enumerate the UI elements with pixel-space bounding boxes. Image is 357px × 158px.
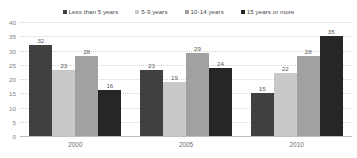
- y-axis-tick-label: 40: [9, 19, 16, 26]
- bar-value-label: 28: [297, 48, 320, 55]
- bar-value-label: 22: [274, 65, 297, 72]
- bar[interactable]: [163, 82, 186, 136]
- chart-legend: Less than 5 years5-9 years10-14 years15 …: [0, 5, 357, 18]
- bar-slot: 16: [98, 22, 121, 136]
- y-axis-tick-label: 10: [9, 104, 16, 111]
- y-axis-tick-label: 20: [9, 76, 16, 83]
- legend-item[interactable]: Less than 5 years: [63, 8, 119, 15]
- bars-layer: 322328162319292415222835: [20, 22, 352, 136]
- legend-swatch-icon: [135, 10, 139, 14]
- bar-group: 15222835: [241, 22, 352, 136]
- x-axis-tick-label: 2005: [131, 140, 242, 152]
- y-axis-tick-label: 15: [9, 90, 16, 97]
- bar-value-label: 35: [320, 28, 343, 35]
- bar-value-label: 16: [98, 82, 121, 89]
- bar-slot: 32: [29, 22, 52, 136]
- bar-value-label: 32: [29, 37, 52, 44]
- bar-group: 32232816: [20, 22, 131, 136]
- bar-value-label: 15: [251, 85, 274, 92]
- bar[interactable]: [186, 53, 209, 136]
- x-axis-tick-label: 2000: [20, 140, 131, 152]
- bar[interactable]: [52, 70, 75, 136]
- bar-slot: 29: [186, 22, 209, 136]
- bar[interactable]: [98, 90, 121, 136]
- y-axis-tick-label: 35: [9, 33, 16, 40]
- bar[interactable]: [75, 56, 98, 136]
- y-axis-tick-label: 5: [13, 118, 16, 125]
- legend-label: Less than 5 years: [69, 8, 119, 15]
- axis-baseline: [20, 136, 352, 137]
- bar-slot: 35: [320, 22, 343, 136]
- bar[interactable]: [209, 68, 232, 136]
- bar-value-label: 23: [52, 62, 75, 69]
- bar[interactable]: [140, 70, 163, 136]
- legend-swatch-icon: [241, 10, 245, 14]
- bar-value-label: 23: [140, 62, 163, 69]
- bar[interactable]: [274, 73, 297, 136]
- y-axis-tick-label: 25: [9, 61, 16, 68]
- bar-value-label: 24: [209, 60, 232, 67]
- bar-value-label: 29: [186, 45, 209, 52]
- bar-value-label: 28: [75, 48, 98, 55]
- bar[interactable]: [320, 36, 343, 136]
- bar-slot: 22: [274, 22, 297, 136]
- bar-slot: 19: [163, 22, 186, 136]
- bar-slot: 15: [251, 22, 274, 136]
- bar[interactable]: [29, 45, 52, 136]
- bar-slot: 24: [209, 22, 232, 136]
- legend-label: 15 years or more: [247, 8, 295, 15]
- legend-label: 10-14 years: [191, 8, 224, 15]
- x-axis-tick-label: 2010: [241, 140, 352, 152]
- legend-item[interactable]: 5-9 years: [135, 8, 167, 15]
- legend-label: 5-9 years: [141, 8, 167, 15]
- legend-swatch-icon: [63, 10, 67, 14]
- y-axis-tick-label: 0: [13, 133, 16, 140]
- y-axis-tick-label: 30: [9, 47, 16, 54]
- bar-slot: 28: [297, 22, 320, 136]
- y-axis: 0510152025303540: [0, 22, 18, 136]
- bar-group: 23192924: [131, 22, 242, 136]
- bar-slot: 23: [140, 22, 163, 136]
- legend-item[interactable]: 15 years or more: [241, 8, 295, 15]
- legend-item[interactable]: 10-14 years: [185, 8, 224, 15]
- bar[interactable]: [297, 56, 320, 136]
- bar[interactable]: [251, 93, 274, 136]
- bar-slot: 23: [52, 22, 75, 136]
- legend-swatch-icon: [185, 10, 189, 14]
- bar-slot: 28: [75, 22, 98, 136]
- bar-chart: Less than 5 years5-9 years10-14 years15 …: [0, 0, 357, 158]
- bar-value-label: 19: [163, 74, 186, 81]
- x-axis: 200020052010: [20, 140, 352, 152]
